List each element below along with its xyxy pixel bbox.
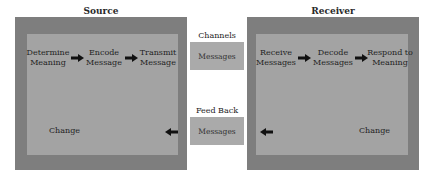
step-line: Determine (26, 48, 70, 58)
feedback-messages-box: Messages (190, 117, 244, 145)
channels-label: Channels (190, 31, 244, 40)
step-line: Message (138, 58, 178, 68)
arrow-right-icon (125, 54, 137, 62)
step-line: Meaning (366, 58, 414, 68)
step-line: Message (84, 58, 124, 68)
arrow-left-icon (260, 128, 272, 136)
step-line: Respond to (366, 48, 414, 58)
source-title: Source (15, 6, 187, 16)
source-change-label: Change (49, 126, 80, 135)
messages-label: Messages (198, 52, 235, 61)
feedback-label: Feed Back (190, 106, 244, 115)
receiver-step-respond-to-meaning: Respond to Meaning (366, 48, 414, 68)
source-step-transmit-message: Transmit Message (138, 48, 178, 68)
step-line: Receive (254, 48, 298, 58)
arrow-left-icon (165, 128, 177, 136)
arrow-right-icon (298, 54, 310, 62)
step-line: Messages (312, 58, 354, 68)
source-step-encode-message: Encode Message (84, 48, 124, 68)
step-line: Messages (254, 58, 298, 68)
receiver-change-label: Change (359, 126, 390, 135)
step-line: Meaning (26, 58, 70, 68)
receiver-step-receive-messages: Receive Messages (254, 48, 298, 68)
step-line: Transmit (138, 48, 178, 58)
step-line: Encode (84, 48, 124, 58)
receiver-title: Receiver (247, 6, 419, 16)
receiver-step-decode-messages: Decode Messages (312, 48, 354, 68)
source-step-determine-meaning: Determine Meaning (26, 48, 70, 68)
step-line: Decode (312, 48, 354, 58)
messages-label: Messages (198, 127, 235, 136)
arrow-right-icon (71, 54, 83, 62)
channels-messages-box: Messages (190, 42, 244, 70)
